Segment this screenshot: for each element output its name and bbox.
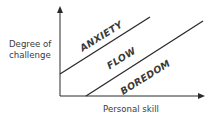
x-axis xyxy=(60,93,205,99)
y-axis-label-line2: challenge xyxy=(9,50,51,60)
flow-diagram: ANXIETY FLOW BOREDOM Degree of challenge… xyxy=(0,0,213,126)
zone-label-flow: FLOW xyxy=(105,45,138,71)
anxiety-boundary-line xyxy=(60,17,150,74)
zone-label-boredom: BOREDOM xyxy=(118,57,172,96)
x-axis-arrow-icon xyxy=(198,93,205,99)
y-axis-arrow-icon xyxy=(57,6,63,13)
y-axis xyxy=(57,6,63,96)
x-axis-label: Personal skill xyxy=(103,104,159,114)
y-axis-label-line1: Degree of xyxy=(9,39,52,49)
